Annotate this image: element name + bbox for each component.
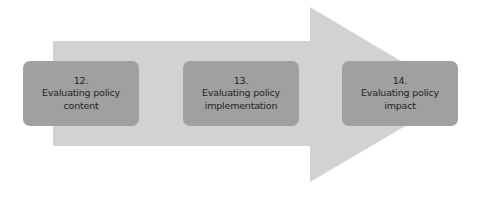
step-number: 14. bbox=[393, 75, 408, 88]
step-label-line2: implementation bbox=[205, 100, 277, 113]
step-box-13: 13. Evaluating policy implementation bbox=[183, 61, 299, 126]
step-box-14: 14. Evaluating policy impact bbox=[342, 61, 458, 126]
step-label-line2: content bbox=[64, 100, 99, 113]
step-number: 13. bbox=[234, 75, 249, 88]
process-diagram: 12. Evaluating policy content 13. Evalua… bbox=[0, 0, 485, 198]
step-box-12: 12. Evaluating policy content bbox=[23, 61, 139, 126]
step-label-line1: Evaluating policy bbox=[202, 87, 280, 100]
step-number: 12. bbox=[74, 75, 89, 88]
step-label-line2: impact bbox=[384, 100, 416, 113]
step-label-line1: Evaluating policy bbox=[361, 87, 439, 100]
step-label-line1: Evaluating policy bbox=[42, 87, 120, 100]
